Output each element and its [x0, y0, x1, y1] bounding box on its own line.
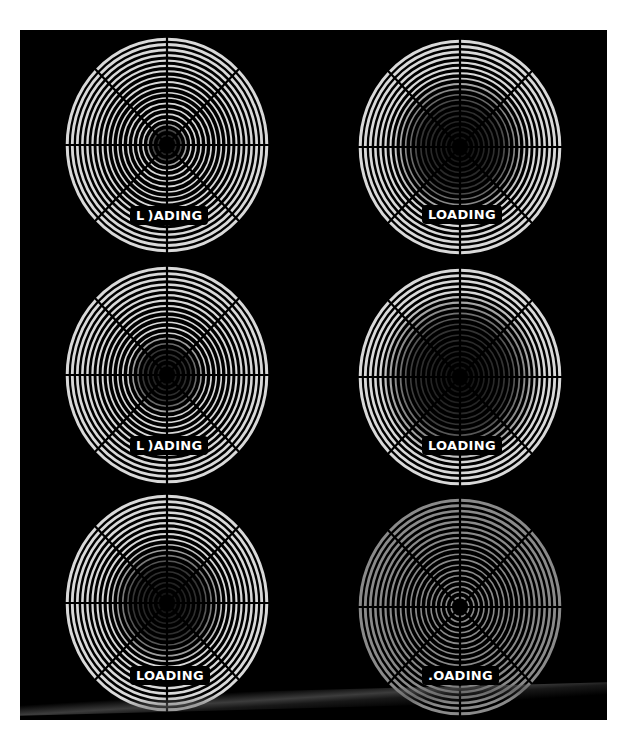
loading-label: LOADING — [130, 666, 210, 685]
loading-spinner-top-right: LOADING — [357, 38, 563, 256]
loading-label: LOADING — [422, 436, 502, 455]
loading-frames-panel: L )ADING LOADING L )ADING LOADING LOADIN… — [20, 30, 607, 720]
loading-label: L )ADING — [130, 206, 208, 225]
loading-spinner-bottom-left: LOADING — [64, 493, 270, 713]
loading-label: .OADING — [422, 666, 499, 685]
loading-label: LOADING — [422, 205, 502, 224]
loading-spinner-middle-right: LOADING — [357, 267, 563, 487]
loading-spinner-middle-left: L )ADING — [64, 265, 270, 485]
loading-label: L )ADING — [130, 436, 208, 455]
loading-spinner-top-left: L )ADING — [64, 36, 270, 254]
loading-spinner-bottom-right: .OADING — [357, 497, 563, 717]
